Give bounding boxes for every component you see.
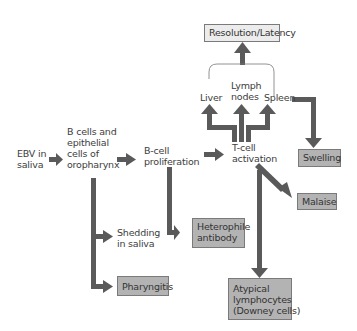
arrow-bprolif-to-heterophile <box>167 167 180 240</box>
arrow-tcell-to-atypical <box>251 170 268 278</box>
node-bcells: B cells andepithelial cells oforopharynx <box>67 126 119 170</box>
node-resolution-latency: Resolution/Latency <box>204 24 280 42</box>
node-heterophile-antibody: Heterophileantibody <box>192 218 245 248</box>
node-malaise: Malaise <box>297 193 337 210</box>
node-liver: Liver <box>200 92 222 103</box>
node-atypical-lymphocytes: Atypicallymphocytes (Downey cells) <box>228 278 292 320</box>
arrow-bcells-to-bprolif <box>117 153 136 166</box>
node-swelling: Swelling <box>298 149 341 167</box>
arrow-organs-to-resolution <box>234 42 251 65</box>
node-lymph-nodes: Lymphnodes <box>231 80 261 102</box>
node-tcell-activation: T-cellactivation <box>232 142 277 164</box>
node-bcell-proliferation: B-cellproliferation <box>144 145 199 167</box>
arrow-ebv-to-bcells <box>49 153 63 166</box>
node-ebv: EBV insaliva <box>17 148 46 170</box>
arrow-spleen-to-swelling <box>292 97 322 148</box>
node-shedding: Sheddingin saliva <box>117 227 160 249</box>
arrow-tcell-to-organs <box>201 104 276 142</box>
node-spleen: Spleen <box>264 92 295 103</box>
arrow-bprolif-to-tcell <box>204 148 224 161</box>
arrow-bcells-branch <box>91 178 113 293</box>
node-pharyngitis: Pharyngitis <box>117 276 169 296</box>
